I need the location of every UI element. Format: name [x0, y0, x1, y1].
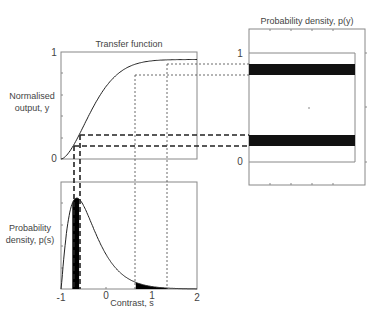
- transfer-ylabel-1: Normalised: [9, 91, 55, 101]
- low-band-projection-lines: [74, 135, 249, 289]
- transfer-plot-title: Transfer function: [95, 39, 162, 49]
- density-s-curve: [61, 198, 197, 289]
- density-y-title: Probability density, p(y): [261, 16, 354, 26]
- transfer-ylabel-2: output, y: [15, 103, 50, 113]
- density-y-ytick-0: 0: [237, 156, 243, 167]
- xtick-0: 0: [103, 290, 109, 301]
- xtick-2: 2: [194, 292, 200, 303]
- density-y-ytick-1: 1: [237, 48, 243, 59]
- xtick-neg1: -1: [57, 292, 66, 303]
- density-s-ylabel-2: density, p(s): [6, 235, 54, 245]
- density-s-ylabel-1: Probability: [9, 223, 52, 233]
- density-s-frame: [61, 182, 197, 289]
- transfer-ytick-0: 0: [51, 153, 57, 164]
- transfer-curve: [61, 60, 197, 160]
- transfer-plot-frame: [61, 52, 197, 159]
- diagram-canvas: Transfer function Normalised output, y 1…: [0, 0, 377, 319]
- density-s-xlabel: Contrast, s: [110, 298, 154, 308]
- transfer-ytick-1: 1: [51, 47, 57, 58]
- high-band-projection-lines: [135, 64, 249, 289]
- density-y-low-band: [249, 135, 355, 146]
- density-y-high-band: [249, 64, 355, 75]
